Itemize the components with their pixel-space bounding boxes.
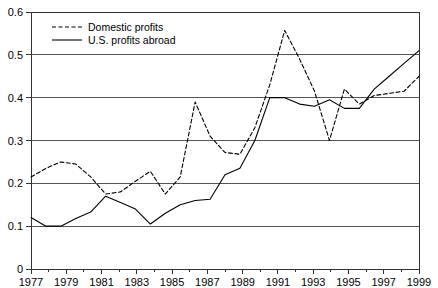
plot-background xyxy=(0,0,438,288)
y-tick-label: 0.3 xyxy=(8,135,23,147)
chart-container: 00.10.20.30.40.50.6 19771979198119831985… xyxy=(0,0,438,288)
x-tick-label: 1981 xyxy=(89,276,113,288)
y-tick-label: 0 xyxy=(17,263,23,275)
y-tick-label: 0.5 xyxy=(8,49,23,61)
line-chart: 00.10.20.30.40.50.6 19771979198119831985… xyxy=(0,0,438,288)
x-tick-label: 1983 xyxy=(125,276,149,288)
x-tick-label: 1989 xyxy=(230,276,254,288)
x-tick-label: 1995 xyxy=(336,276,360,288)
y-tick-label: 0.1 xyxy=(8,220,23,232)
x-tick-label: 1985 xyxy=(160,276,184,288)
x-tick-label: 1987 xyxy=(195,276,219,288)
y-tick-label: 0.4 xyxy=(8,92,23,104)
x-tick-label: 1979 xyxy=(54,276,78,288)
x-tick-label: 1997 xyxy=(371,276,395,288)
y-tick-label: 0.6 xyxy=(8,6,23,18)
x-tick-label: 1999 xyxy=(407,276,431,288)
x-tick-label: 1991 xyxy=(266,276,290,288)
legend-label-2: U.S. profits abroad xyxy=(88,34,176,46)
x-tick-label: 1993 xyxy=(301,276,325,288)
x-tick-label: 1977 xyxy=(19,276,43,288)
y-tick-label: 0.2 xyxy=(8,177,23,189)
legend-label-1: Domestic profits xyxy=(88,21,163,33)
